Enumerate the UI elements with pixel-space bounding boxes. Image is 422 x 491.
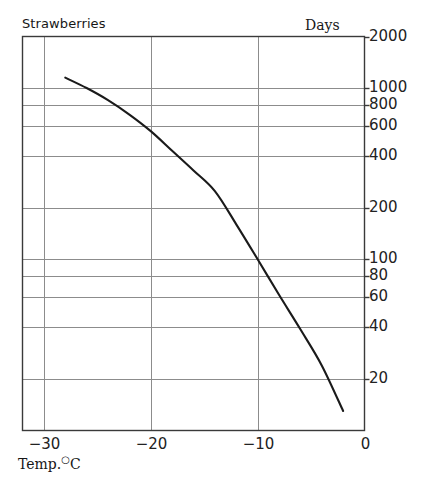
y-axis-tick-label: 40 [369, 319, 388, 334]
y-axis-tick-label: 60 [369, 289, 388, 304]
horizontal-gridlines [23, 89, 365, 380]
data-series-curve [65, 78, 343, 411]
plot-area [0, 0, 422, 491]
y-axis-tick-label: 80 [369, 268, 388, 283]
y-axis-tick-label: 1000 [369, 80, 407, 95]
y-axis-tick-label: 100 [369, 251, 398, 266]
y-axis-tick-label: 20 [369, 371, 388, 386]
y-axis-tick-label: 600 [369, 118, 398, 133]
y-axis-tick-label: 2000 [369, 29, 407, 44]
chart-container: Strawberries Days Temp.○C 20001000800600… [0, 0, 422, 491]
x-axis-tick-label: 0 [361, 437, 371, 452]
y-axis-tick-label: 800 [369, 97, 398, 112]
y-axis-tick-label: 200 [369, 200, 398, 215]
y-axis-tick-label: 400 [369, 148, 398, 163]
x-axis-tick-label: −20 [136, 437, 168, 452]
x-axis-tick-label: −30 [29, 437, 61, 452]
plot-frame [23, 37, 365, 431]
x-axis-tick-label: −10 [243, 437, 275, 452]
vertical-gridlines [45, 37, 259, 431]
